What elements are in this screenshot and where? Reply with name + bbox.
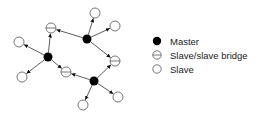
edge-arrow: [48, 34, 50, 53]
bridge-node: [61, 67, 71, 77]
master-node: [90, 77, 99, 86]
legend-item-slave: Slave: [152, 62, 248, 76]
edge-arrow: [88, 18, 93, 34]
legend: Master Slave/slave bridge Slave: [152, 34, 248, 76]
legend-item-master: Master: [152, 34, 248, 48]
slave-node: [110, 21, 120, 31]
slave-node: [113, 92, 123, 102]
bridge-node: [46, 23, 56, 33]
edge-arrow: [24, 45, 44, 55]
master-node: [44, 53, 53, 62]
legend-label-master: Master: [170, 36, 199, 47]
legend-label-bridge: Slave/slave bridge: [170, 50, 248, 61]
edge-arrow: [56, 30, 82, 38]
slave-node: [14, 37, 24, 47]
master-node: [83, 35, 92, 44]
edge-arrow: [98, 83, 114, 93]
edge-arrow: [51, 60, 61, 69]
nodes-layer: [14, 8, 123, 110]
bridge-node-icon: [152, 50, 162, 60]
edge-arrow: [91, 42, 111, 58]
network-diagram: [0, 0, 140, 115]
edge-arrow: [97, 65, 111, 78]
edges-layer: [24, 18, 113, 100]
edge-arrow: [91, 28, 110, 37]
legend-label-slave: Slave: [170, 64, 194, 75]
legend-item-bridge: Slave/slave bridge: [152, 48, 248, 62]
slave-node: [90, 8, 100, 18]
edge-arrow: [85, 85, 92, 100]
edge-arrow: [26, 60, 44, 74]
slave-node: [78, 100, 88, 110]
bridge-node: [110, 56, 120, 66]
master-node-icon: [152, 36, 162, 46]
edge-arrow: [71, 74, 89, 80]
slave-node: [17, 72, 27, 82]
slave-node-icon: [152, 64, 162, 74]
